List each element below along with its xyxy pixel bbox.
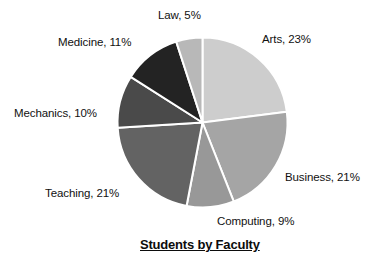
slice-label-arts: Arts, 23% [262,34,311,46]
slice-label-business: Business, 21% [285,172,360,184]
pie-slice-teaching[interactable] [118,123,203,206]
pie-slice-group [118,37,288,207]
slice-label-law: Law, 5% [158,10,201,22]
chart-title: Students by Faculty [140,238,260,251]
pie-slice-arts[interactable] [203,38,287,123]
chart-area: Law, 5% Arts, 23% Medicine, 11% Mechanic… [0,0,389,266]
slice-label-medicine: Medicine, 11% [58,37,131,49]
slice-label-mechanics: Mechanics, 10% [14,108,97,120]
pie-chart-page: Law, 5% Arts, 23% Medicine, 11% Mechanic… [0,0,389,266]
slice-label-computing: Computing, 9% [217,216,294,228]
slice-label-teaching: Teaching, 21% [45,188,119,200]
